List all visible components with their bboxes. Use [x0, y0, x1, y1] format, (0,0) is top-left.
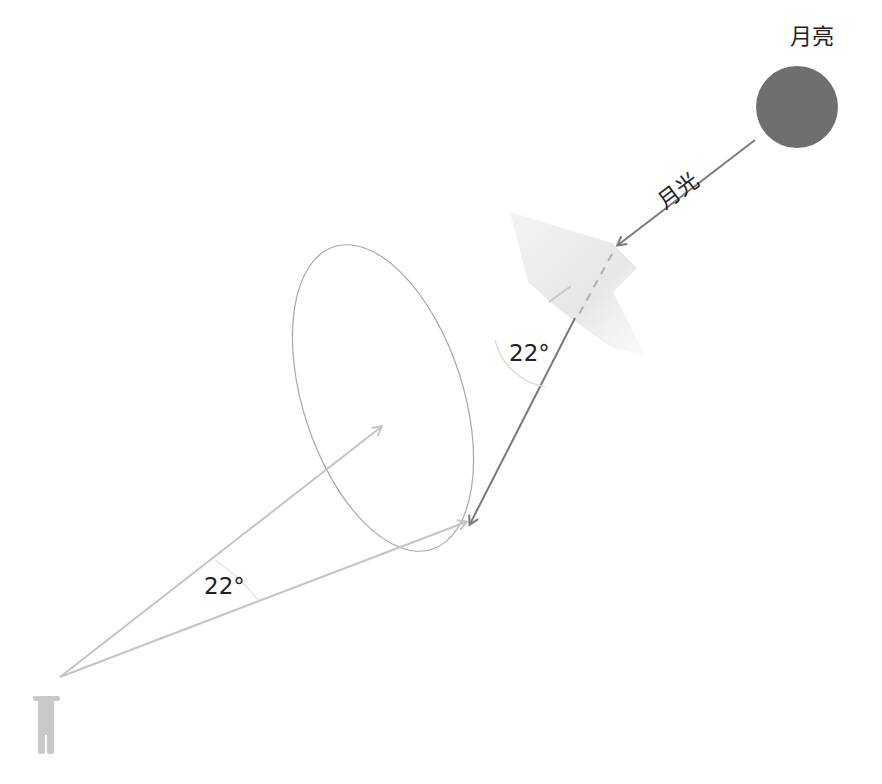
ice-crystal — [510, 212, 645, 355]
line-of-sight-halo — [60, 522, 466, 677]
moon-label: 月亮 — [790, 24, 834, 49]
crystal-shape — [510, 212, 645, 355]
crystal-angle-label: 22° — [509, 340, 550, 366]
observer-angle-label: 22° — [204, 573, 245, 599]
moonlight-label: 月光 — [653, 168, 703, 214]
halo-diagram: 月亮 月光 22° 22° — [0, 0, 882, 784]
observer-rays: 22° — [60, 427, 466, 677]
moonlight-ray: 月光 — [618, 140, 755, 245]
observer-icon — [33, 696, 60, 754]
moon: 月亮 — [756, 24, 838, 148]
line-of-sight-center — [60, 427, 381, 677]
crystal-angle: 22° — [495, 340, 550, 387]
moon-disc — [756, 66, 838, 148]
